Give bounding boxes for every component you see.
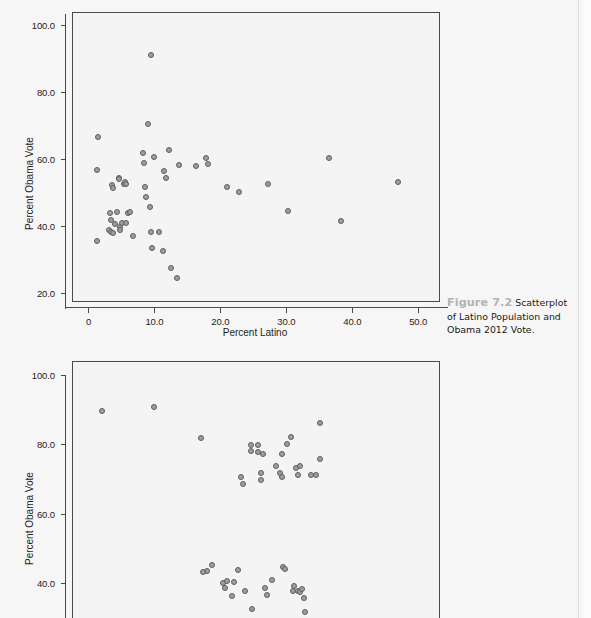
data-point	[141, 160, 147, 166]
y-axis-label-2: Percent Obama Vote	[24, 472, 35, 565]
data-point	[249, 606, 255, 612]
y-tick-label: 100.0	[21, 20, 55, 31]
data-point	[236, 189, 242, 195]
y-axis-spine	[65, 14, 66, 309]
x-tick-label: 0	[86, 316, 91, 327]
figure-caption: Figure 7.2 Scatterplot of Latino Populat…	[447, 296, 577, 337]
data-point	[143, 194, 149, 200]
data-point	[297, 463, 303, 469]
y-tick-mark	[61, 92, 66, 93]
data-point	[193, 163, 199, 169]
data-point	[224, 184, 230, 190]
data-point	[258, 477, 264, 483]
data-point	[200, 569, 206, 575]
data-point	[110, 185, 116, 191]
y-tick-mark	[61, 25, 66, 26]
data-point	[148, 52, 154, 58]
data-point	[313, 472, 319, 478]
figure-scatterplot-second: 40.060.080.0100.0 Percent Obama Vote	[0, 355, 591, 618]
y-tick-mark	[61, 226, 66, 227]
data-point	[240, 481, 246, 487]
y-tick-mark	[61, 293, 66, 294]
data-point	[317, 456, 323, 462]
data-point	[265, 181, 271, 187]
data-point	[123, 220, 129, 226]
data-point	[238, 474, 244, 480]
y-tick-label: 20.0	[21, 288, 55, 299]
data-point	[282, 566, 288, 572]
data-point	[203, 155, 209, 161]
data-point	[174, 275, 180, 281]
data-point	[127, 209, 133, 215]
data-point	[198, 435, 204, 441]
data-point	[176, 162, 182, 168]
data-point	[156, 229, 162, 235]
data-point	[338, 218, 344, 224]
data-point	[231, 579, 237, 585]
x-axis-label-1: Percent Latino	[72, 327, 438, 338]
x-tick-mark	[220, 308, 221, 313]
x-tick-label: 10.0	[145, 316, 163, 327]
data-point	[326, 155, 332, 161]
x-tick-mark	[154, 308, 155, 313]
data-point	[140, 150, 146, 156]
y-tick-label: 100.0	[21, 369, 55, 380]
data-point	[262, 585, 268, 591]
data-point	[114, 209, 120, 215]
data-point	[264, 592, 270, 598]
y-tick-mark	[61, 159, 66, 160]
data-point	[95, 134, 101, 140]
y-axis-label-1: Percent Obama Vote	[24, 137, 35, 230]
x-tick-label: 50.0	[409, 316, 427, 327]
data-point	[205, 161, 211, 167]
data-point	[209, 562, 215, 568]
data-point	[242, 588, 248, 594]
data-point	[166, 147, 172, 153]
data-point	[163, 175, 169, 181]
data-point	[255, 442, 261, 448]
data-point	[295, 472, 301, 478]
data-point	[260, 451, 266, 457]
data-point	[168, 265, 174, 271]
x-tick-label: 20.0	[211, 316, 229, 327]
data-point	[149, 245, 155, 251]
data-point	[302, 609, 308, 615]
data-point	[299, 586, 305, 592]
data-point	[160, 248, 166, 254]
data-point	[279, 451, 285, 457]
y-tick-label: 80.0	[21, 439, 55, 450]
data-point	[94, 167, 100, 173]
x-tick-mark	[418, 308, 419, 313]
data-point	[151, 404, 157, 410]
data-point	[99, 408, 105, 414]
x-tick-mark	[88, 308, 89, 313]
figure-caption-number: Figure 7.2	[447, 296, 512, 309]
scatter-points-2	[73, 362, 439, 618]
data-point	[147, 204, 153, 210]
data-point	[222, 585, 228, 591]
scatter-points-1	[73, 13, 439, 301]
y-tick-label: 40.0	[21, 578, 55, 589]
x-axis-spine	[65, 307, 448, 308]
data-point	[395, 179, 401, 185]
data-point	[224, 578, 230, 584]
data-point	[94, 238, 100, 244]
data-point	[110, 230, 116, 236]
data-point	[258, 470, 264, 476]
data-point	[123, 181, 129, 187]
data-point	[117, 227, 123, 233]
data-point	[248, 448, 254, 454]
y-tick-mark	[61, 514, 66, 515]
data-point	[269, 577, 275, 583]
y-axis-spine	[65, 375, 66, 618]
data-point	[229, 593, 235, 599]
data-point	[235, 567, 241, 573]
data-point	[288, 434, 294, 440]
data-point	[284, 441, 290, 447]
data-point	[285, 208, 291, 214]
data-point	[107, 210, 113, 216]
data-point	[145, 121, 151, 127]
data-point	[142, 184, 148, 190]
x-tick-label: 30.0	[277, 316, 295, 327]
data-point	[151, 154, 157, 160]
